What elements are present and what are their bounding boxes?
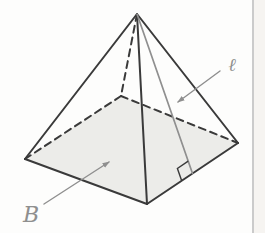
- base-label: B: [22, 202, 39, 227]
- page-edge-line: [252, 0, 254, 233]
- base-face: [25, 96, 238, 204]
- edge-apex-back-hidden: [121, 14, 137, 96]
- page-margin: [253, 0, 265, 233]
- pyramid-figure: B ℓ: [0, 0, 265, 233]
- slant-height-label: ℓ: [228, 54, 236, 75]
- figure-container: B ℓ: [0, 0, 265, 233]
